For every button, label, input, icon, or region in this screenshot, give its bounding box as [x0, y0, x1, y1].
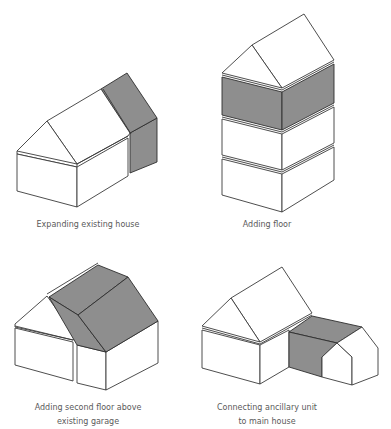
- caption-line: existing garage: [35, 415, 142, 429]
- caption-line: Adding second floor above: [35, 401, 142, 415]
- caption-garage-floor: Adding second floor above existing garag…: [35, 401, 142, 429]
- garage-front-wall: [77, 345, 106, 390]
- house-expanding-existing: [17, 73, 157, 207]
- caption-line: Expanding existing house: [37, 218, 140, 232]
- caption-line: Connecting ancillary unit: [217, 401, 317, 415]
- caption-expanding: Expanding existing house: [37, 218, 140, 232]
- caption-adding-floor: Adding floor: [243, 218, 292, 232]
- diagram-canvas: [0, 0, 391, 429]
- house-garage-second-floor: [15, 263, 158, 390]
- caption-ancillary: Connecting ancillary unit to main house: [217, 401, 317, 429]
- house-ancillary-unit: [202, 267, 378, 385]
- caption-line: Adding floor: [243, 218, 292, 232]
- house-adding-floor: [222, 14, 334, 212]
- caption-line: to main house: [217, 415, 317, 429]
